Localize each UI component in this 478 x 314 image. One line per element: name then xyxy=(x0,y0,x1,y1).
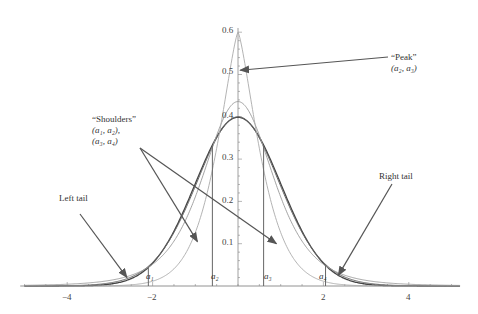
y-tick-label: 0.1 xyxy=(222,237,233,247)
peak-title: “Peak” xyxy=(391,52,417,63)
annotation-arrows xyxy=(80,57,392,278)
density-curve-1 xyxy=(25,117,461,286)
shoulders-annotation: “Shoulders” (a₁, a₂), (a₃, a₄) xyxy=(92,114,136,147)
y-tick-label: 0.4 xyxy=(222,110,233,120)
y-tick-label: 0.6 xyxy=(222,25,233,35)
a3-label: a₃ xyxy=(264,271,272,282)
density-chart xyxy=(0,0,478,314)
density-curve-2 xyxy=(25,117,461,286)
x-tick-label: 4 xyxy=(406,292,411,302)
right-tail-arrow xyxy=(338,184,392,275)
x-tick-label: −4 xyxy=(62,292,72,302)
x-tick-label: −2 xyxy=(147,292,157,302)
shoulders-subtitle-2: (a₃, a₄) xyxy=(92,136,136,147)
shoulders-title: “Shoulders” xyxy=(92,114,136,125)
peak-arrow xyxy=(240,57,388,70)
left-tail-label: Left tail xyxy=(59,193,88,204)
y-tick-label: 0.3 xyxy=(222,152,233,162)
shoulder-left-arrow xyxy=(140,148,197,242)
a4-label: a₄ xyxy=(319,271,327,282)
y-tick-label: 0.5 xyxy=(222,66,233,76)
left-tail-arrow xyxy=(80,214,127,278)
x-tick-label: 2 xyxy=(321,292,326,302)
peak-subtitle: (a₂, a₃) xyxy=(391,63,417,74)
a2-label: a₂ xyxy=(211,271,219,282)
a1-label: a₁ xyxy=(146,271,154,282)
y-tick-label: 0.2 xyxy=(222,195,233,205)
density-curve-3 xyxy=(25,102,461,286)
peak-annotation: “Peak” (a₂, a₃) xyxy=(391,52,417,74)
shoulder-right-arrow xyxy=(140,148,276,244)
right-tail-label: Right tail xyxy=(379,171,413,182)
shoulders-subtitle-1: (a₁, a₂), xyxy=(92,125,136,136)
